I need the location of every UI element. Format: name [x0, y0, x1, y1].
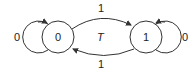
self-loop-s1-arrow [156, 22, 165, 23]
transition-s1-s0 [73, 49, 134, 56]
state-diagram: 0 0 1 T 1 1 0 [0, 0, 196, 70]
center-label: T [97, 31, 105, 43]
self-loop-s1-label: 0 [182, 31, 188, 43]
state-s0-label: 0 [55, 31, 61, 43]
self-loop-s0-arrow [38, 22, 47, 23]
self-loop-s0 [23, 21, 48, 53]
transition-s0-s1-label: 1 [98, 2, 104, 14]
self-loop-s1 [156, 21, 181, 53]
transition-s0-s1 [72, 18, 131, 29]
transition-s1-s0-label: 1 [98, 58, 104, 70]
self-loop-s0-label: 0 [14, 31, 20, 43]
state-s1-label: 1 [143, 31, 149, 43]
